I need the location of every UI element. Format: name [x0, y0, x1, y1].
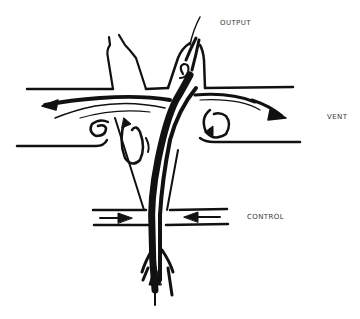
left-upper-channel [107, 35, 146, 89]
interaction-chamber-right-wall [167, 150, 178, 210]
control-label: CONTROL [247, 213, 284, 221]
fluidic-amplifier-diagram [0, 0, 360, 319]
diagram-canvas: OUTPUT VENT CONTROL [0, 0, 360, 319]
right-vortex-arrow [205, 126, 213, 136]
output-label: OUTPUT [220, 19, 251, 27]
supply-inlet-right [162, 250, 173, 295]
vent-channel-top-wall [27, 87, 293, 89]
vent-channel-bottom-wall-left [17, 140, 107, 146]
vent-label: VENT [327, 113, 347, 121]
left-vortex [91, 120, 108, 136]
left-vent-arrow [42, 100, 58, 110]
